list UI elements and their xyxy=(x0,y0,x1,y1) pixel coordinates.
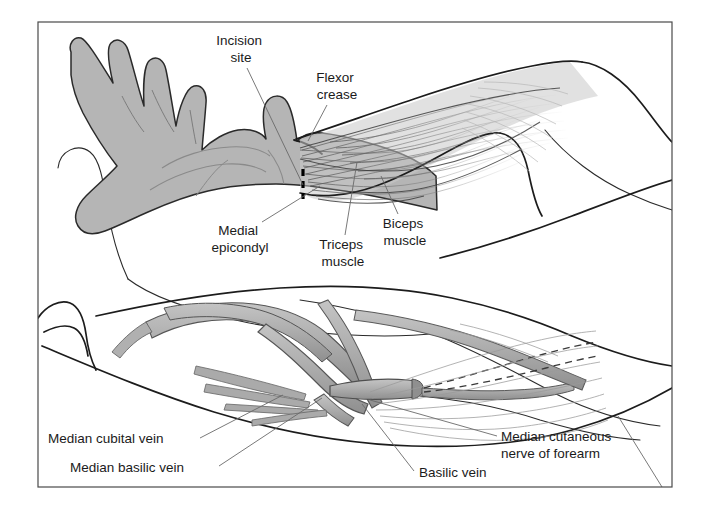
label-median-cubital-vein: Median cubital vein xyxy=(48,431,164,446)
anatomy-figure: Incision site Flexor crease Medial epico… xyxy=(0,0,707,514)
label-basilic-vein: Basilic vein xyxy=(419,465,487,480)
label-median-basilic-vein: Median basilic vein xyxy=(70,460,184,475)
figure-canvas: Incision site Flexor crease Medial epico… xyxy=(0,0,707,514)
